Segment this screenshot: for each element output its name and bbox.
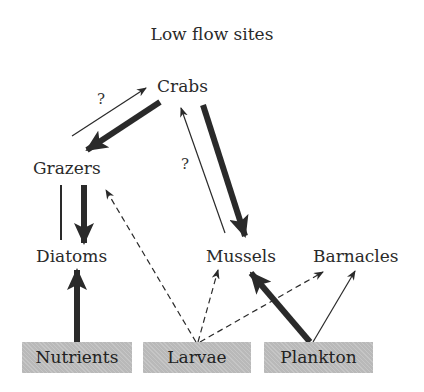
- node-crabs: Crabs: [157, 76, 208, 96]
- node-diatoms: Diatoms: [36, 246, 107, 266]
- arrow-grazers-to-crabs: [72, 88, 146, 136]
- arrow-crabs-to-mussels: [203, 105, 245, 236]
- uncertain-mark-grazers-crabs: ?: [97, 90, 105, 108]
- food-web-arrows: [0, 0, 424, 392]
- arrow-plankton-to-barnacles: [313, 271, 355, 342]
- arrow-plankton-to-mussels: [251, 273, 310, 342]
- node-mussels: Mussels: [206, 246, 276, 266]
- node-grazers: Grazers: [33, 158, 101, 178]
- arrow-larvae-to-mussels: [198, 270, 218, 342]
- node-barnacles: Barnacles: [313, 246, 399, 266]
- arrow-crabs-to-grazers: [87, 102, 160, 150]
- source-box-larvae: Larvae: [143, 342, 251, 373]
- uncertain-mark-mussels-crabs: ?: [181, 155, 189, 173]
- source-box-nutrients: Nutrients: [22, 342, 132, 373]
- arrow-larvae-to-grazers: [106, 190, 196, 342]
- source-box-plankton: Plankton: [264, 342, 373, 373]
